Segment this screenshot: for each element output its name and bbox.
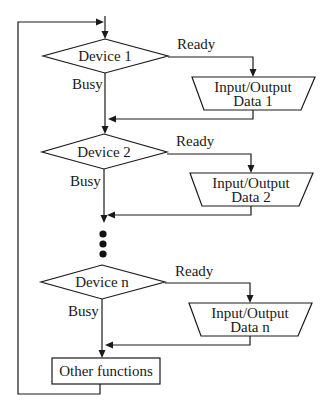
ready-connector-device-n bbox=[165, 283, 250, 297]
ready-label-device-n: Ready bbox=[175, 263, 214, 279]
io-return-arrowhead-device-n bbox=[105, 342, 113, 349]
ready-label-device-2: Ready bbox=[176, 133, 215, 149]
busy-label-device-2: Busy bbox=[70, 173, 101, 189]
ready-arrowhead-device-1 bbox=[250, 69, 257, 77]
ready-connector-device-2 bbox=[167, 154, 251, 167]
busy-arrowhead-device-n bbox=[99, 350, 106, 358]
io-label-line2-device-n: Data n bbox=[230, 319, 270, 335]
device-n-block: Device n Ready Input/Output Data n Busy bbox=[41, 263, 312, 358]
ellipsis-dot-1 bbox=[99, 230, 106, 237]
io-return-arrowhead-device-1 bbox=[108, 116, 116, 123]
other-functions-label: Other functions bbox=[59, 363, 153, 379]
decision-label-device-n: Device n bbox=[75, 274, 129, 290]
ellipsis-dots bbox=[99, 230, 106, 257]
device-2-block: Device 2 Ready Input/Output Data 2 Busy bbox=[42, 133, 313, 223]
ready-connector-device-1 bbox=[168, 57, 253, 71]
decision-label-device-1: Device 1 bbox=[78, 48, 132, 64]
entry-arrowhead bbox=[102, 31, 109, 39]
device-1-block: Device 1 Ready Input/Output Data 1 Busy bbox=[43, 36, 315, 134]
flowchart: Device 1 Ready Input/Output Data 1 Busy … bbox=[0, 0, 331, 411]
ellipsis-dot-2 bbox=[99, 240, 106, 247]
busy-label-device-n: Busy bbox=[68, 303, 99, 319]
ready-label-device-1: Ready bbox=[177, 36, 216, 52]
ellipsis-dot-3 bbox=[99, 250, 106, 257]
busy-label-device-1: Busy bbox=[72, 76, 103, 92]
io-label-line2-device-2: Data 2 bbox=[231, 189, 271, 205]
busy-arrowhead-device-1 bbox=[102, 126, 109, 134]
ready-arrowhead-device-n bbox=[247, 295, 254, 303]
io-return-connector-device-n bbox=[113, 336, 250, 345]
io-return-connector-device-1 bbox=[116, 110, 253, 119]
ready-arrowhead-device-2 bbox=[248, 165, 255, 173]
decision-label-device-2: Device 2 bbox=[77, 144, 131, 160]
busy-arrowhead-device-2 bbox=[101, 215, 108, 223]
loop-back-arrowhead bbox=[96, 19, 104, 26]
io-return-arrowhead-device-2 bbox=[107, 212, 115, 219]
io-label-line2-device-1: Data 1 bbox=[233, 93, 273, 109]
io-return-connector-device-2 bbox=[115, 206, 251, 215]
